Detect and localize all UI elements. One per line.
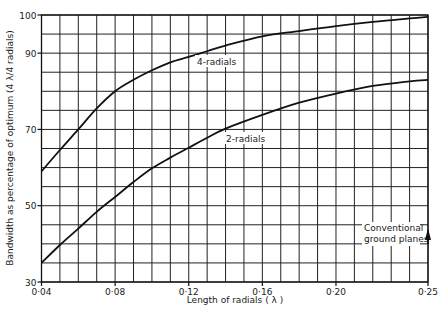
y-tick-label: 50 bbox=[25, 201, 37, 211]
series-label-4-radials: 4-radials bbox=[195, 55, 238, 67]
y-tick-label: 100 bbox=[19, 11, 36, 21]
series-2-radials-text: 2-radials bbox=[226, 134, 265, 144]
series-4-radials-text: 4-radials bbox=[197, 57, 236, 67]
line-chart: 0·040·080·120·160·200·2530507090100 Leng… bbox=[0, 0, 442, 315]
x-tick-label: 0·20 bbox=[326, 287, 346, 297]
y-axis-label: Bandwidth as percentage of optimum (4 λ/… bbox=[5, 30, 15, 266]
x-tick-label: 0·25 bbox=[418, 287, 438, 297]
x-tick-label: 0·04 bbox=[31, 287, 51, 297]
x-axis-label: Length of radials ( λ ) bbox=[187, 295, 284, 305]
annotation-conventional-ground-planes: Conventional ground planes bbox=[340, 222, 431, 246]
y-tick-label: 90 bbox=[25, 49, 37, 59]
y-tick-label: 30 bbox=[25, 278, 37, 288]
series-label-2-radials: 2-radials bbox=[224, 132, 265, 144]
x-tick-label: 0·08 bbox=[105, 287, 125, 297]
annotation-line-2: ground planes bbox=[364, 234, 429, 244]
annotation-line-1: Conventional bbox=[364, 223, 423, 233]
y-tick-label: 70 bbox=[25, 125, 37, 135]
